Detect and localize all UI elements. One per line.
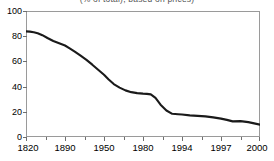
- x-axis-tick: [26, 137, 27, 141]
- x-axis-label: 2000: [246, 143, 267, 153]
- x-axis-tick-minor: [46, 137, 47, 140]
- x-axis-tick-minor: [85, 137, 86, 140]
- y-axis-label: 0: [0, 133, 22, 142]
- y-axis-label: 60: [0, 57, 22, 66]
- x-axis-tick: [182, 137, 183, 141]
- y-axis-label: 40: [0, 82, 22, 91]
- series-layer: [26, 11, 260, 137]
- y-axis-label: 80: [0, 32, 22, 41]
- x-axis-label: 1980: [132, 143, 153, 153]
- x-axis-tick: [65, 137, 66, 141]
- x-axis-tick-minor: [241, 137, 242, 140]
- x-axis-label: 1994: [171, 143, 192, 153]
- x-axis-label: 1820: [17, 143, 38, 153]
- x-axis-tick-minor: [163, 137, 164, 140]
- y-axis-labels: 020406080100: [0, 11, 22, 137]
- x-axis-tick: [104, 137, 105, 141]
- chart-title: (% of total), based on prices): [0, 0, 274, 4]
- x-axis-labels: 1820189019501980199419972000: [26, 143, 260, 157]
- chart-figure: (% of total), based on prices) 020406080…: [0, 0, 274, 161]
- x-axis-tick: [259, 137, 260, 141]
- y-axis-label: 100: [0, 7, 22, 16]
- x-axis-tick-minor: [124, 137, 125, 140]
- x-axis-label: 1890: [54, 143, 75, 153]
- x-axis-label: 1950: [93, 143, 114, 153]
- x-axis-tick-minor: [202, 137, 203, 140]
- x-axis-tick: [143, 137, 144, 141]
- series-line: [26, 11, 260, 137]
- y-axis-label: 20: [0, 107, 22, 116]
- x-axis-tick: [221, 137, 222, 141]
- x-axis-label: 1997: [210, 143, 231, 153]
